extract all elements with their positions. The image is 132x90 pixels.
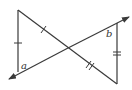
geometry-diagram: a b <box>0 0 132 90</box>
bowtie-figure: a b <box>0 0 132 90</box>
diagonal-segment <box>18 10 117 84</box>
angle-label-b: b <box>106 28 112 39</box>
transversal-line <box>68 17 129 48</box>
angle-label-a: a <box>21 60 27 71</box>
